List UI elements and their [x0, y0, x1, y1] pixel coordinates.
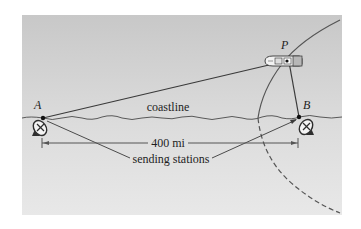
point-b-label: B — [303, 98, 311, 112]
loran-diagram: A B P coastline 400 mi sending stations — [0, 0, 361, 229]
point-p-dot — [285, 59, 288, 62]
point-a-label: A — [33, 98, 42, 112]
distance-label: 400 mi — [151, 136, 185, 150]
sending-stations-label: sending stations — [133, 152, 210, 166]
point-b-dot — [297, 115, 301, 119]
ship-icon — [265, 56, 302, 66]
point-p-label: P — [280, 38, 289, 52]
coastline-label: coastline — [147, 100, 190, 114]
diagram-panel — [22, 15, 342, 215]
point-a-dot — [41, 116, 45, 120]
